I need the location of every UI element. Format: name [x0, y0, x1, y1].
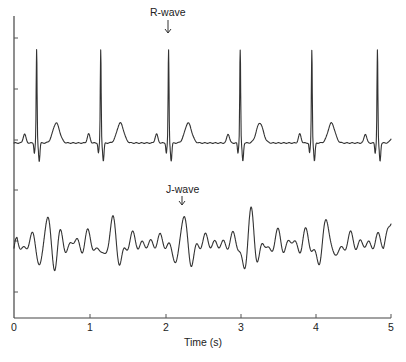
x-tick-label: 0	[11, 321, 17, 333]
r-wave-arrow-icon	[165, 20, 171, 33]
ecg-trace	[14, 50, 391, 162]
r-wave-label: R-wave	[150, 6, 186, 18]
x-tick-labels: 0 1 2 3 4 5	[11, 321, 394, 333]
y-ticks	[14, 38, 18, 292]
x-tick-label: 1	[87, 321, 93, 333]
x-tick-label: 3	[238, 321, 244, 333]
x-axis-title: Time (s)	[184, 336, 222, 348]
x-tick-label: 4	[313, 321, 319, 333]
jwave-trace	[14, 207, 391, 271]
j-wave-arrow-icon	[179, 196, 185, 205]
ecg-figure: 0 1 2 3 4 5 Time (s) R-wave J-wave	[0, 0, 406, 362]
j-wave-label: J-wave	[166, 183, 199, 195]
x-tick-label: 2	[163, 321, 169, 333]
x-tick-label: 5	[388, 321, 394, 333]
